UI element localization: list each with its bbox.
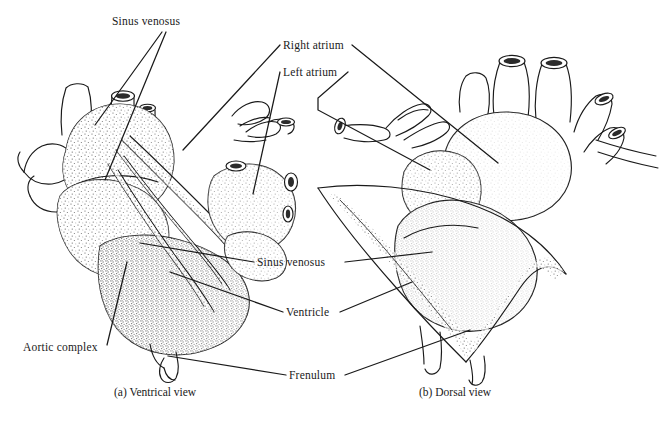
label-ventricle: Ventricle [286, 306, 329, 318]
heart-diagram-artwork [0, 0, 665, 421]
anatomical-figure: Sinus venosus Right atrium Left atrium S… [0, 0, 665, 421]
leader-ventricle-b [340, 282, 412, 312]
label-aortic-complex: Aortic complex [23, 341, 98, 353]
leader-left-atrium-b [318, 72, 430, 170]
label-right-atrium: Right atrium [283, 39, 344, 51]
dorsal-left-vessel-stump [333, 104, 450, 148]
dorsal-view-heart [318, 55, 658, 385]
leader-right-atrium-a [183, 45, 280, 150]
label-sinus-venosus-middle: Sinus venosus [257, 256, 325, 268]
caption-panel-a: (a) Ventrical view [114, 386, 196, 398]
ventral-branch-vessels [232, 102, 295, 142]
caption-panel-b: (b) Dorsal view [419, 386, 491, 398]
label-frenulum: Frenulum [289, 369, 335, 381]
leader-frenulum-b [345, 330, 470, 375]
leader-right-atrium-b [352, 45, 498, 163]
ventral-view-heart [18, 84, 298, 383]
leader-frenulum-a [168, 356, 286, 375]
label-left-atrium: Left atrium [283, 66, 337, 78]
label-sinus-venosus-top: Sinus venosus [112, 15, 180, 27]
